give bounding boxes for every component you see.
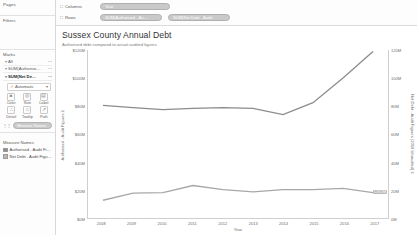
chart-subtitle: Authorised debt compared to actual audit… [62,42,415,47]
legend-swatch-icon [3,148,8,153]
legend-item-authorised[interactable]: Authorised - Audit Fi… [3,147,52,154]
x-axis-tick-label: 2014 [279,221,288,226]
marks-button-label: Tooltip [22,115,33,119]
tooltip-icon: □ [23,106,31,114]
series-end-label: £18.5M [373,190,387,194]
x-axis-tick-label: 2017 [370,221,379,226]
marks-path-button[interactable]: ↗ Path [36,106,52,119]
axis-tick-label: $40M [75,160,85,165]
marks-button-label: Color [7,101,16,105]
x-axis-tick-label: 2012 [218,221,227,226]
x-axis-title: Year [86,227,390,232]
pages-shelf[interactable]: Pages [0,0,55,16]
marks-tab-label: SUM(Authorise… [8,66,47,71]
legend-title: Measure Names [3,140,52,145]
axis-tick-label: $20M [75,188,85,193]
chart-line-right [103,185,373,200]
marks-measure-names-row: ⋮⋮ Measure Names [3,122,52,129]
axis-tick-label: 120M [391,47,401,52]
size-icon: ◎ [23,93,31,101]
rows-shelf[interactable]: ∷ Rows SUM(Authorised - Au… SUM(Net Debt… [60,13,413,22]
marks-tab-label: SUM(Net De… [8,74,47,79]
marks-card-title: Marks [3,52,52,57]
marks-tab-label: All [8,59,47,64]
drag-handle-icon: ⋮⋮ [3,123,11,128]
right-axis-title: Net Debt - Audit Figures (2018 Unaudited… [410,50,415,220]
columns-shelf-label-group: ∷ Columns [60,4,96,9]
marks-tab-menu-icon[interactable]: ⋯ [47,59,52,64]
color-icon: ■ [7,93,15,101]
rows-shelf-label: Rows [65,15,76,20]
axis-tick-label: 20M [391,188,399,193]
marks-color-button[interactable]: ■ Color [3,93,19,106]
line-chart-icon: ↗ [10,84,13,89]
axis-tick-label: 0M [391,217,397,222]
label-icon: ▤ [40,93,48,101]
legend-item-label: Net Debt - Audit Figu… [10,154,52,159]
chart-line-left [103,51,373,114]
filters-shelf[interactable]: Filters [0,16,55,50]
x-axis-ticks: 2008200920102011201220132014201520162017 [86,219,390,227]
detail-icon: ∴ [7,106,15,114]
axis-tick-label: $120M [72,47,85,52]
marks-tooltip-button[interactable]: □ Tooltip [19,106,35,119]
marks-detail-button[interactable]: ∴ Detail [3,106,19,119]
measure-names-pill[interactable]: Measure Names [13,122,52,129]
x-axis-tick-label: 2015 [309,221,318,226]
marks-button-label: Label [39,101,48,105]
marks-tab-net-debt[interactable]: ▾ SUM(Net De… ⋯ [3,73,52,81]
marks-button-label: Size [24,101,31,105]
axis-tick-label: 60M [391,132,399,137]
marks-button-grid: ■ Color ◎ Size ▤ Label ∴ Detail □ Tool [3,93,52,119]
grid-icon: ∷ [60,15,63,20]
legend-item-net-debt[interactable]: Net Debt - Audit Figu… [3,153,52,160]
marks-button-label: Detail [6,115,16,119]
mark-type-selector[interactable]: ↗ Automatic ▾ [7,83,51,91]
columns-pill-year[interactable]: Year [100,3,170,11]
filters-shelf-title: Filters [3,18,52,23]
marks-label-button[interactable]: ▤ Label [36,93,52,106]
x-axis: 2008200920102011201220132014201520162017… [86,219,390,233]
left-shelf-panel: Pages Filters Marks ▾ All ⋯ ▾ SUM(Author… [0,0,56,235]
chart-lines-svg [88,50,388,219]
left-axis-ticks: $120M$100M$80M$60M$40M$20M$0M [65,50,87,220]
marks-tab-menu-icon[interactable]: ⋯ [47,74,52,79]
axis-tick-label: $80M [75,104,85,109]
columns-shelf-label: Columns [65,4,82,9]
chevron-down-icon: ▾ [46,85,48,89]
axis-tick-label: 80M [391,104,399,109]
axis-tick-label: 100M [391,75,401,80]
x-axis-tick-label: 2008 [97,221,106,226]
pages-shelf-title: Pages [3,2,52,7]
marks-tab-list: ▾ All ⋯ ▾ SUM(Authorise… ⋯ ▾ SUM(Net De…… [3,58,52,81]
axis-tick-label: $60M [75,132,85,137]
shelves-area: ∷ Columns Year ∷ Rows SUM(Authorised - A… [56,0,417,26]
x-axis-tick-label: 2013 [249,221,258,226]
legend-swatch-icon [3,154,8,159]
x-axis-tick-label: 2016 [340,221,349,226]
plot-wrapper: Authorised - Audit Figures £ $120M$100M$… [60,50,415,220]
x-axis-tick-label: 2009 [127,221,136,226]
rows-pill-net-debt[interactable]: SUM(Net Debt - Audit [168,14,230,22]
marks-tab-menu-icon[interactable]: ⋯ [47,66,52,71]
path-icon: ↗ [40,106,48,114]
marks-tab-authorised[interactable]: ▾ SUM(Authorise… ⋯ [3,66,52,74]
chart-title: Sussex County Annual Debt [62,30,415,40]
columns-shelf[interactable]: ∷ Columns Year [60,2,413,11]
worksheet-main: ∷ Columns Year ∷ Rows SUM(Authorised - A… [56,0,417,235]
axis-tick-label: 40M [391,160,399,165]
legend-item-label: Authorised - Audit Fi… [10,147,51,152]
x-axis-tick-label: 2011 [188,221,197,226]
marks-tab-all[interactable]: ▾ All ⋯ [3,58,52,66]
rows-shelf-label-group: ∷ Rows [60,15,96,20]
grid-icon: ∷ [60,4,63,9]
right-axis-ticks: 120M100M80M60M40M20M0M [389,50,410,220]
axis-tick-label: $0M [77,217,85,222]
tableau-worksheet: Pages Filters Marks ▾ All ⋯ ▾ SUM(Author… [0,0,417,235]
rows-pill-authorised[interactable]: SUM(Authorised - Au… [100,14,162,22]
x-axis-tick-label: 2010 [157,221,166,226]
marks-size-button[interactable]: ◎ Size [19,93,35,106]
mark-type-label: Automatic [15,84,44,89]
plot-canvas[interactable]: £18.5M [87,50,389,220]
axis-tick-label: $100M [72,75,85,80]
